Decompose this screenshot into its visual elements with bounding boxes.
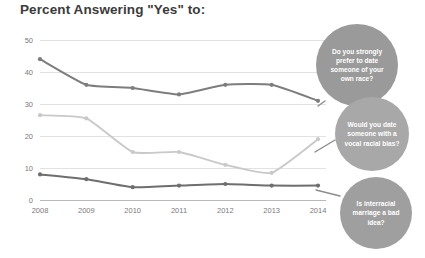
leader-vocal-bias <box>315 140 335 152</box>
bubble-own-race-label-line: someone of your <box>330 66 384 74</box>
bubble-own-race-label-line: prefer to date <box>336 57 378 65</box>
data-point-marker <box>177 92 181 96</box>
y-axis-tick-label: 40 <box>25 68 33 77</box>
y-axis-tick-label: 50 <box>25 36 33 45</box>
bubble-interracial[interactable]: Is interracialmarriage a badidea? <box>340 177 412 249</box>
bubble-interracial-label-line: idea? <box>367 219 384 226</box>
bubble-vocal-bias[interactable]: Would you datesomeone with avocal racial… <box>335 97 409 171</box>
annotation-bubbles-group: Do you stronglyprefer to datesomeone of … <box>316 24 412 249</box>
data-point-marker <box>84 177 88 181</box>
series-1 <box>38 57 320 103</box>
series-3 <box>38 172 320 189</box>
series-2 <box>38 113 320 175</box>
x-axis-tick-label: 2012 <box>217 206 234 215</box>
x-axis-tick-label: 2010 <box>124 206 141 215</box>
bubble-interracial-label-line: marriage a bad <box>353 209 400 217</box>
data-point-marker <box>270 184 274 188</box>
bubble-vocal-bias-label-line: someone with a <box>347 130 397 137</box>
chart-container: Percent Answering "Yes" to: 01020304050 … <box>0 0 425 258</box>
x-axis-tick-label: 2011 <box>171 206 187 215</box>
gridlines-group <box>40 40 326 200</box>
x-axis-tick-labels: 2008200920102011201220132014 <box>32 206 327 215</box>
data-point-marker <box>131 150 135 154</box>
y-axis-tick-label: 20 <box>25 132 33 141</box>
data-point-marker <box>131 185 135 189</box>
data-point-marker <box>38 113 42 117</box>
x-axis-tick-label: 2008 <box>32 206 49 215</box>
bubble-own-race-circle[interactable] <box>316 24 398 106</box>
bubble-own-race-label-line: own race? <box>341 75 374 82</box>
data-point-marker <box>316 184 320 188</box>
data-point-marker <box>84 116 88 120</box>
data-point-marker <box>316 137 320 141</box>
data-point-marker <box>223 163 227 167</box>
y-axis-tick-labels: 01020304050 <box>25 36 33 205</box>
data-point-marker <box>131 86 135 90</box>
bubble-interracial-label-line: Is interracial <box>357 200 396 207</box>
data-point-marker <box>316 99 320 103</box>
data-point-marker <box>177 150 181 154</box>
data-point-marker <box>177 184 181 188</box>
series-lines-group <box>38 57 320 189</box>
x-axis-tick-label: 2013 <box>263 206 280 215</box>
series-line-path <box>40 115 318 173</box>
leader-interracial <box>316 190 340 196</box>
x-axis-tick-label: 2009 <box>78 206 95 215</box>
y-axis-tick-label: 10 <box>25 164 33 173</box>
data-point-marker <box>38 57 42 61</box>
data-point-marker <box>270 171 274 175</box>
data-point-marker <box>223 83 227 87</box>
bubble-vocal-bias-label-line: vocal racial bias? <box>345 140 400 147</box>
data-point-marker <box>38 172 42 176</box>
x-axis-tick-label: 2014 <box>310 206 327 215</box>
y-axis-tick-label: 30 <box>25 100 33 109</box>
bubble-own-race-label-line: Do you strongly <box>332 48 383 56</box>
line-chart-plot: 01020304050 2008200920102011201220132014… <box>0 0 425 258</box>
bubble-own-race[interactable]: Do you stronglyprefer to datesomeone of … <box>316 24 398 106</box>
data-point-marker <box>84 83 88 87</box>
data-point-marker <box>223 182 227 186</box>
bubble-vocal-bias-label-line: Would you date <box>348 121 397 129</box>
data-point-marker <box>270 83 274 87</box>
leader-lines-group <box>315 101 340 196</box>
y-axis-tick-label: 0 <box>29 196 33 205</box>
